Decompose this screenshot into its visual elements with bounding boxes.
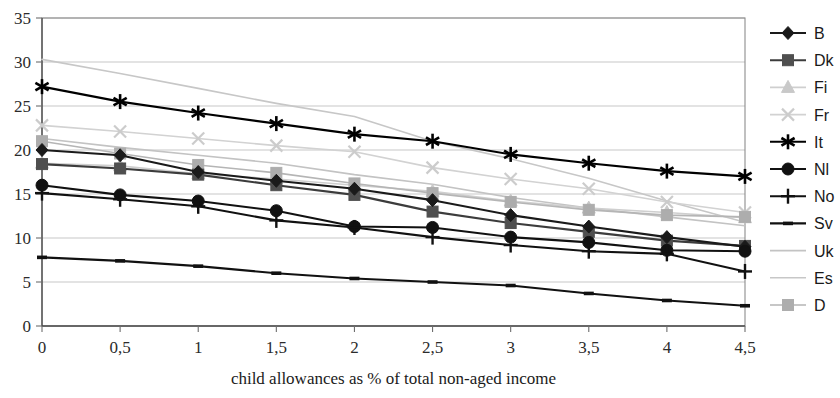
series-nl — [36, 179, 751, 257]
y-axis-ticks: 05101520253035 — [14, 9, 42, 336]
legend-label-nl: Nl — [814, 161, 829, 178]
legend-marker-no-plus-marker — [781, 189, 795, 204]
y-tick-label-5: 5 — [23, 273, 32, 292]
legend-marker-nl-circle-marker — [782, 163, 794, 175]
data-series-group — [35, 59, 752, 307]
x-tick-label-6: 3 — [506, 338, 515, 357]
legend-item-dk[interactable]: Dk — [770, 52, 835, 69]
series-dk-pt-1-square-marker — [115, 163, 126, 174]
series-dk — [37, 159, 751, 252]
series-d-pt-7-square-marker — [583, 204, 594, 215]
series-dk-pt-5-square-marker — [427, 206, 438, 217]
x-tick-label-3: 1,5 — [266, 338, 287, 357]
series-sv-pt-2-dash-marker — [193, 264, 203, 268]
legend-item-sv[interactable]: Sv — [770, 215, 833, 232]
legend-label-fr: Fr — [814, 107, 830, 124]
series-sv-pt-4-dash-marker — [349, 277, 359, 281]
series-sv-pt-1-dash-marker — [115, 259, 125, 263]
legend-item-fr[interactable]: Fr — [770, 107, 830, 124]
series-sv-pt-5-dash-marker — [428, 280, 438, 284]
series-no-pt-5-plus-marker — [426, 230, 440, 245]
series-sv-pt-7-dash-marker — [584, 292, 594, 296]
legend-label-d: D — [814, 297, 826, 314]
x-tick-label-1: 0,5 — [109, 338, 130, 357]
legend-item-d[interactable]: D — [770, 297, 826, 314]
y-tick-label-10: 10 — [14, 229, 31, 248]
y-tick-label-30: 30 — [14, 53, 31, 72]
series-nl-pt-9-circle-marker — [739, 245, 751, 257]
series-fi — [36, 156, 752, 223]
legend-item-fi[interactable]: Fi — [770, 79, 827, 96]
legend-item-uk[interactable]: Uk — [770, 243, 835, 260]
legend-label-uk: Uk — [814, 243, 835, 260]
legend-marker-dk-square-marker — [783, 55, 794, 66]
series-line-no — [42, 193, 745, 271]
legend-marker-d-square-marker — [783, 300, 794, 311]
legend-label-sv: Sv — [814, 215, 833, 232]
x-tick-label-4: 2 — [350, 338, 359, 357]
legend-item-it[interactable]: It — [770, 134, 823, 151]
y-tick-label-20: 20 — [14, 141, 31, 160]
series-d-pt-6-square-marker — [505, 196, 516, 207]
chart-container: 05101520253035 00,511,522,533,544,5 chil… — [0, 0, 840, 398]
series-no — [35, 186, 752, 279]
series-sv-pt-3-dash-marker — [271, 271, 281, 275]
series-line-sv — [42, 257, 745, 305]
legend-label-fi: Fi — [814, 79, 827, 96]
x-axis-title-label: child allowances as % of total non-aged … — [231, 369, 556, 388]
x-tick-label-0: 0 — [38, 338, 47, 357]
legend-item-no[interactable]: No — [770, 188, 835, 205]
line-chart: 05101520253035 00,511,522,533,544,5 chil… — [0, 0, 840, 398]
x-tick-label-7: 3,5 — [578, 338, 599, 357]
y-tick-label-15: 15 — [14, 185, 31, 204]
series-sv-pt-6-dash-marker — [506, 284, 516, 288]
legend-item-nl[interactable]: Nl — [770, 161, 829, 178]
legend-marker-fi-triangle-marker — [782, 80, 795, 92]
legend-label-es: Es — [814, 270, 833, 287]
legend-item-es[interactable]: Es — [770, 270, 833, 287]
y-tick-label-25: 25 — [14, 97, 31, 116]
x-axis-title: child allowances as % of total non-aged … — [231, 369, 556, 388]
series-sv-pt-9-dash-marker — [740, 304, 750, 308]
x-tick-label-2: 1 — [194, 338, 203, 357]
y-tick-label-0: 0 — [23, 317, 32, 336]
x-tick-label-8: 4 — [663, 338, 672, 357]
series-d-pt-9-square-marker — [740, 211, 751, 222]
legend-label-dk: Dk — [814, 52, 835, 69]
series-sv-pt-0-dash-marker — [37, 256, 47, 260]
y-tick-label-35: 35 — [14, 9, 31, 28]
legend-item-b[interactable]: B — [770, 25, 825, 42]
series-d-pt-8-square-marker — [661, 210, 672, 221]
x-axis-ticks: 00,511,522,533,544,5 — [38, 326, 756, 357]
legend-label-it: It — [814, 134, 823, 151]
series-no-pt-4-plus-marker — [347, 220, 361, 235]
series-sv-pt-8-dash-marker — [662, 299, 672, 303]
legend-marker-sv-dash-marker — [783, 222, 793, 226]
legend-marker-b-diamond-marker — [782, 27, 794, 40]
x-tick-label-9: 4,5 — [734, 338, 755, 357]
legend-label-b: B — [814, 25, 825, 42]
chart-legend: BDkFiFrItNlNoSvUkEsD — [770, 25, 835, 314]
x-tick-label-5: 2,5 — [422, 338, 443, 357]
series-sv — [37, 256, 750, 308]
series-no-pt-3-plus-marker — [269, 213, 283, 228]
legend-label-no: No — [814, 188, 835, 205]
series-no-pt-9-plus-marker — [738, 264, 752, 279]
series-line-it — [42, 87, 745, 177]
series-dk-pt-0-square-marker — [37, 159, 48, 170]
